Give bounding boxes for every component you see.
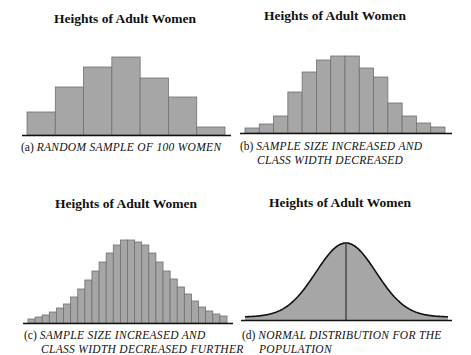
histogram-bar — [27, 112, 55, 135]
histogram-bar — [71, 297, 78, 323]
caption-text-line1: SAMPLE SIZE INCREASED AND — [256, 140, 422, 152]
caption-text-line2: CLASS WIDTH DECREASED — [240, 153, 422, 167]
histogram-bar — [128, 240, 135, 323]
caption-text: RANDOM SAMPLE OF 100 WOMEN — [37, 141, 222, 153]
histogram-bar — [245, 128, 259, 133]
histogram-bar — [316, 60, 330, 133]
panel-d: Heights of Adult Women (d) NORMAL DISTRI… — [235, 175, 471, 355]
histogram-bar — [56, 308, 63, 323]
histogram-bar — [274, 116, 288, 133]
histogram-bar — [259, 124, 273, 133]
histogram-bar — [112, 57, 140, 135]
histogram-bar — [168, 97, 196, 135]
histogram-bar — [135, 242, 142, 323]
histogram-bar — [28, 319, 35, 323]
caption-text-line1: NORMAL DISTRIBUTION FOR THE — [258, 329, 441, 341]
histogram-bar — [302, 72, 316, 133]
caption-text-line1: SAMPLE SIZE INCREASED AND — [40, 329, 206, 341]
histogram-bar — [402, 116, 416, 133]
chart-caption: (d) NORMAL DISTRIBUTION FOR THE POPULATI… — [242, 328, 442, 355]
histogram-bar — [99, 262, 106, 323]
histogram-bar — [120, 240, 127, 323]
histogram-bar — [78, 289, 85, 323]
panel-a: Heights of Adult Women (a) RANDOM SAMPLE… — [0, 0, 235, 175]
histogram-bar — [106, 253, 113, 323]
histogram-bar — [184, 294, 191, 323]
histogram-bar — [142, 245, 149, 323]
caption-label: (c) — [24, 329, 37, 341]
histogram-bar — [374, 77, 388, 133]
histogram-bar — [35, 317, 42, 323]
histogram-bar — [85, 280, 92, 323]
caption-label: (d) — [242, 329, 255, 341]
histogram-bar — [197, 127, 225, 135]
histogram-bar — [140, 78, 168, 135]
histogram-bar — [55, 87, 83, 135]
chart-caption: (c) SAMPLE SIZE INCREASED AND CLASS WIDT… — [24, 328, 244, 355]
histogram-bar — [220, 316, 227, 323]
histogram-bar — [388, 103, 402, 133]
histogram-bar — [170, 279, 177, 323]
histogram-bar — [163, 271, 170, 323]
histogram-bar — [49, 312, 56, 323]
histogram-bar — [359, 68, 373, 133]
chart-caption: (a) RANDOM SAMPLE OF 100 WOMEN — [21, 140, 221, 154]
histogram-bar — [149, 253, 156, 323]
histogram-bar — [288, 92, 302, 133]
histogram-bar — [199, 307, 206, 323]
caption-label: (a) — [21, 141, 34, 153]
histogram-bar — [113, 245, 120, 323]
histogram-bar — [64, 304, 71, 323]
caption-text-line2: CLASS WIDTH DECREASED FURTHER — [24, 342, 244, 355]
histogram-bar — [156, 262, 163, 323]
histogram-bar — [331, 56, 345, 133]
histogram-bar — [177, 287, 184, 323]
panel-c: Heights of Adult Women (c) SAMPLE SIZE I… — [0, 175, 235, 355]
panel-b: Heights of Adult Women (b) SAMPLE SIZE I… — [235, 0, 471, 175]
histogram-bar — [84, 67, 112, 135]
histogram-bar — [92, 271, 99, 323]
histogram-bar — [206, 311, 213, 323]
histogram-bar — [213, 314, 220, 323]
histogram-bar — [431, 127, 445, 133]
histogram-bar — [42, 315, 49, 323]
chart-caption: (b) SAMPLE SIZE INCREASED AND CLASS WIDT… — [240, 139, 422, 167]
histogram-bar — [191, 301, 198, 323]
histogram-bar — [345, 56, 359, 133]
caption-label: (b) — [240, 140, 253, 152]
caption-text-line2: POPULATION — [242, 342, 442, 355]
histogram-bar — [416, 123, 430, 133]
